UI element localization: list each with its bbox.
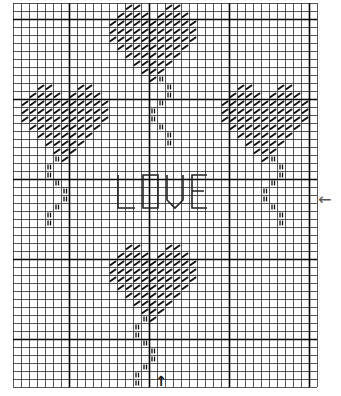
half-stitch-symbol <box>127 22 132 26</box>
half-stitch-symbol <box>159 310 164 314</box>
half-stitch-symbol <box>143 302 148 306</box>
half-stitch-symbol <box>231 118 236 122</box>
half-stitch-symbol <box>167 14 172 18</box>
half-stitch-symbol <box>159 62 164 66</box>
half-stitch-symbol <box>119 262 124 266</box>
half-stitch-symbol <box>143 310 148 314</box>
half-stitch-symbol <box>31 118 36 122</box>
half-stitch-symbol <box>151 286 156 290</box>
svg-text:↑: ↑ <box>155 373 167 389</box>
half-stitch-symbol <box>159 14 164 18</box>
half-stitch-symbol <box>271 94 276 98</box>
half-stitch-symbol <box>71 110 76 114</box>
half-stitch-symbol <box>271 126 276 130</box>
half-stitch-symbol <box>167 46 172 50</box>
half-stitch-symbol <box>23 102 28 106</box>
half-stitch-symbol <box>47 126 52 130</box>
half-stitch-symbol <box>303 110 308 114</box>
half-stitch-symbol <box>263 150 268 154</box>
half-stitch-symbol <box>111 278 116 282</box>
half-stitch-symbol <box>63 102 68 106</box>
half-stitch-symbol <box>279 94 284 98</box>
half-stitch-symbol <box>191 38 196 42</box>
half-stitch-symbol <box>151 54 156 58</box>
half-stitch-symbol <box>63 150 68 154</box>
half-stitch-symbol <box>127 270 132 274</box>
center-arrow-icon: ↑ <box>155 373 167 389</box>
half-stitch-symbol <box>151 30 156 34</box>
half-stitch-symbol <box>87 134 92 138</box>
half-stitch-symbol <box>55 94 60 98</box>
half-stitch-symbol <box>191 22 196 26</box>
half-stitch-symbol <box>143 254 148 258</box>
half-stitch-symbol <box>175 270 180 274</box>
half-stitch-symbol <box>175 14 180 18</box>
half-stitch-symbol <box>175 294 180 298</box>
half-stitch-symbol <box>191 270 196 274</box>
half-stitch-symbol <box>127 254 132 258</box>
half-stitch-symbol <box>175 262 180 266</box>
half-stitch-symbol <box>279 102 284 106</box>
half-stitch-symbol <box>135 262 140 266</box>
half-stitch-symbol <box>191 262 196 266</box>
half-stitch-symbol <box>175 38 180 42</box>
half-stitch-symbol <box>279 110 284 114</box>
cross-stitch-chart: ↑ <box>0 0 341 396</box>
half-stitch-symbol <box>63 142 68 146</box>
half-stitch-symbol <box>135 254 140 258</box>
half-stitch-symbol <box>191 278 196 282</box>
half-stitch-symbol <box>247 126 252 130</box>
half-stitch-symbol <box>63 134 68 138</box>
half-stitch-symbol <box>151 70 156 74</box>
half-stitch-symbol <box>263 158 268 162</box>
half-stitch-symbol <box>103 110 108 114</box>
half-stitch-symbol <box>119 30 124 34</box>
half-stitch-symbol <box>111 22 116 26</box>
half-stitch-symbol <box>167 30 172 34</box>
half-stitch-symbol <box>255 94 260 98</box>
half-stitch-symbol <box>167 302 172 306</box>
half-stitch-symbol <box>39 86 44 90</box>
half-stitch-symbol <box>223 110 228 114</box>
half-stitch-symbol <box>247 118 252 122</box>
half-stitch-symbol <box>167 286 172 290</box>
half-stitch-symbol <box>255 118 260 122</box>
half-stitch-symbol <box>183 262 188 266</box>
half-stitch-symbol <box>127 46 132 50</box>
half-stitch-symbol <box>95 126 100 130</box>
half-stitch-symbol <box>247 86 252 90</box>
half-stitch-symbol <box>135 46 140 50</box>
half-stitch-symbol <box>287 134 292 138</box>
half-stitch-symbol <box>255 150 260 154</box>
half-stitch-symbol <box>183 286 188 290</box>
half-stitch-symbol <box>263 110 268 114</box>
half-stitch-symbol <box>159 22 164 26</box>
half-stitch-symbol <box>231 110 236 114</box>
half-stitch-symbol <box>271 150 276 154</box>
half-stitch-symbol <box>143 278 148 282</box>
half-stitch-symbol <box>159 30 164 34</box>
half-stitch-symbol <box>87 94 92 98</box>
half-stitch-symbol <box>159 278 164 282</box>
half-stitch-symbol <box>127 286 132 290</box>
half-stitch-symbol <box>263 142 268 146</box>
half-stitch-symbol <box>183 270 188 274</box>
half-stitch-symbol <box>95 102 100 106</box>
half-stitch-symbol <box>167 246 172 250</box>
half-stitch-symbol <box>95 110 100 114</box>
half-stitch-symbol <box>151 78 156 82</box>
half-stitch-symbol <box>31 102 36 106</box>
half-stitch-symbol <box>127 246 132 250</box>
half-stitch-symbol <box>151 62 156 66</box>
half-stitch-symbol <box>159 38 164 42</box>
half-stitch-symbol <box>87 110 92 114</box>
half-stitch-symbol <box>159 54 164 58</box>
half-stitch-symbol <box>143 30 148 34</box>
half-stitch-symbol <box>79 142 84 146</box>
half-stitch-symbol <box>143 54 148 58</box>
half-stitch-symbol <box>71 142 76 146</box>
half-stitch-symbol <box>247 142 252 146</box>
half-stitch-symbol <box>39 134 44 138</box>
half-stitch-symbol <box>71 102 76 106</box>
half-stitch-symbol <box>55 150 60 154</box>
